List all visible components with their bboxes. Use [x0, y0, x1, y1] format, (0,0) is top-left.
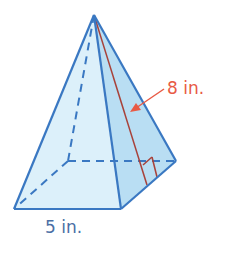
pyramid-figure [0, 0, 233, 257]
base-edge-label: 5 in. [45, 219, 82, 236]
slant-height-label: 8 in. [167, 80, 204, 97]
